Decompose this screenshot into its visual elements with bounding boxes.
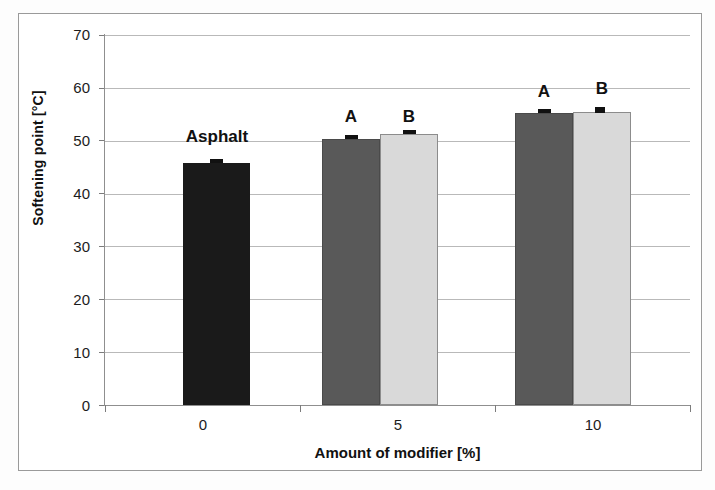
y-tick-label-30: 30	[50, 238, 90, 255]
y-tick-label-40: 40	[50, 185, 90, 202]
annotation-series-a-10: A	[514, 82, 574, 102]
annotation-series-a-5: A	[321, 107, 381, 127]
y-tick-label-70: 70	[50, 26, 90, 43]
errorbar-series-b-10	[595, 107, 605, 113]
plot-area: Asphalt A B A B	[105, 35, 690, 405]
x-tick-mark-b2	[495, 405, 496, 412]
x-tick-mark-start	[105, 405, 106, 412]
x-axis-label: Amount of modifier [%]	[105, 444, 690, 461]
y-tick-label-0: 0	[50, 397, 90, 414]
x-tick-mark-end	[690, 405, 691, 412]
errorbar-series-a-5	[345, 135, 358, 139]
errorbar-series-a-10	[538, 109, 551, 113]
plot-wrapper: 70 60 50 40 30 20 10 0	[0, 0, 715, 490]
y-tick-label-50: 50	[50, 132, 90, 149]
y-tick-label-60: 60	[50, 79, 90, 96]
y-tick-label-10: 10	[50, 344, 90, 361]
annotation-series-b-10: B	[572, 79, 632, 99]
x-tick-label-5: 5	[358, 416, 438, 433]
errorbar-series-b-5	[403, 130, 416, 134]
annotation-series-b-5: B	[379, 107, 439, 127]
y-tick-label-20: 20	[50, 291, 90, 308]
bar-asphalt-0	[183, 163, 250, 405]
x-axis-line	[104, 405, 691, 406]
x-tick-label-10: 10	[553, 416, 633, 433]
annotation-asphalt: Asphalt	[157, 127, 277, 147]
gridline-70	[105, 35, 690, 36]
chart-figure: 70 60 50 40 30 20 10 0	[0, 0, 715, 490]
bar-series-a-5	[322, 139, 380, 405]
x-tick-label-0: 0	[163, 416, 243, 433]
bar-series-b-10	[573, 112, 631, 405]
y-axis-label: Softening point [°C]	[30, 58, 46, 258]
bar-series-a-10	[515, 113, 573, 405]
x-tick-mark-b1	[300, 405, 301, 412]
errorbar-asphalt-0	[210, 159, 223, 163]
bar-series-b-5	[380, 134, 438, 405]
